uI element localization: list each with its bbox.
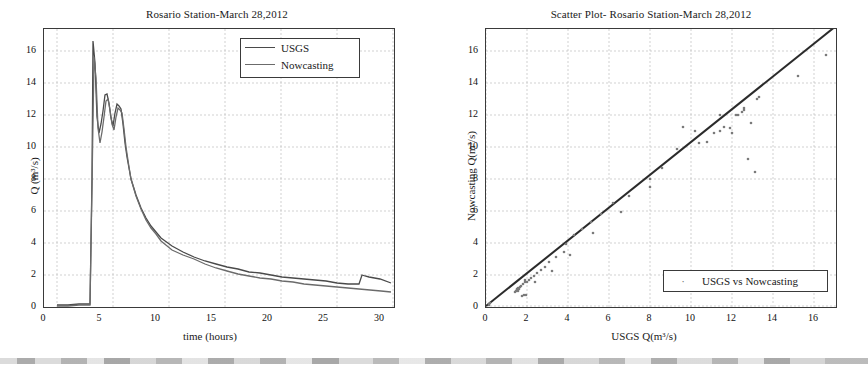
left-chart-title: Rosario Station-March 28,2012 bbox=[0, 8, 434, 20]
right-xtick-4: 4 bbox=[557, 312, 577, 323]
right-plot-svg bbox=[486, 29, 836, 307]
right-xtick-6: 6 bbox=[598, 312, 618, 323]
left-xtick-10: 10 bbox=[145, 312, 165, 323]
left-xtick-0: 0 bbox=[33, 312, 53, 323]
right-legend: · USGS vs Nowcasting bbox=[663, 270, 828, 292]
left-series-usgs bbox=[57, 41, 391, 305]
right-xtick-2: 2 bbox=[516, 312, 536, 323]
right-ytick-4: 4 bbox=[456, 236, 478, 247]
right-chart-panel: Scatter Plot- Rosario Station-March 28,2… bbox=[434, 0, 868, 360]
right-chart-title: Scatter Plot- Rosario Station-March 28,2… bbox=[434, 8, 868, 20]
left-xtick-25: 25 bbox=[313, 312, 333, 323]
right-ytick-0: 0 bbox=[456, 300, 478, 311]
right-ytick-6: 6 bbox=[456, 204, 478, 215]
legend-item-scatter: · USGS vs Nowcasting bbox=[664, 271, 827, 291]
right-ytick-10: 10 bbox=[456, 140, 478, 151]
caption-text-blur bbox=[0, 358, 868, 364]
figure-caption-strip bbox=[0, 358, 868, 376]
legend-item-usgs: USGS bbox=[241, 39, 359, 56]
right-ytick-8: 8 bbox=[456, 172, 478, 183]
left-xtick-5: 5 bbox=[89, 312, 109, 323]
right-x-axis-label: USGS Q(m³/s) bbox=[554, 330, 734, 342]
scatter-points bbox=[488, 54, 828, 307]
left-xtick-15: 15 bbox=[201, 312, 221, 323]
legend-line-usgs-icon bbox=[245, 47, 275, 48]
legend-label-scatter: USGS vs Nowcasting bbox=[702, 275, 798, 287]
legend-label-nowcasting: Nowcasting bbox=[281, 59, 334, 71]
left-ytick-0: 0 bbox=[14, 300, 36, 311]
legend-line-nowcasting-icon bbox=[245, 64, 275, 65]
right-plot-area bbox=[485, 28, 837, 308]
left-x-axis-label: time (hours) bbox=[120, 330, 300, 342]
left-ytick-6: 6 bbox=[14, 204, 36, 215]
left-ytick-4: 4 bbox=[14, 236, 36, 247]
right-ytick-2: 2 bbox=[456, 268, 478, 279]
legend-item-nowcasting: Nowcasting bbox=[241, 56, 359, 73]
left-xtick-20: 20 bbox=[257, 312, 277, 323]
right-xtick-10: 10 bbox=[680, 312, 700, 323]
right-ytick-12: 12 bbox=[456, 108, 478, 119]
right-xtick-0: 0 bbox=[475, 312, 495, 323]
right-xtick-12: 12 bbox=[721, 312, 741, 323]
left-ytick-10: 10 bbox=[14, 140, 36, 151]
right-ytick-16: 16 bbox=[456, 44, 478, 55]
left-ytick-8: 8 bbox=[14, 172, 36, 183]
legend-label-usgs: USGS bbox=[281, 42, 309, 54]
left-ytick-2: 2 bbox=[14, 268, 36, 279]
right-xtick-14: 14 bbox=[762, 312, 782, 323]
legend-dot-icon: · bbox=[668, 276, 698, 287]
left-chart-panel: Rosario Station-March 28,2012 Q (m³/s) 1… bbox=[0, 0, 434, 360]
left-xtick-30: 30 bbox=[369, 312, 389, 323]
left-ytick-12: 12 bbox=[14, 108, 36, 119]
right-xtick-16: 16 bbox=[803, 312, 823, 323]
figure-page: Rosario Station-March 28,2012 Q (m³/s) 1… bbox=[0, 0, 868, 376]
right-ytick-14: 14 bbox=[456, 76, 478, 87]
left-ytick-16: 16 bbox=[14, 44, 36, 55]
right-xtick-8: 8 bbox=[639, 312, 659, 323]
left-legend: USGS Nowcasting bbox=[240, 38, 360, 78]
left-ytick-14: 14 bbox=[14, 76, 36, 87]
